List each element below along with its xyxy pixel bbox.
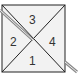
region-label-left: 2 — [10, 36, 17, 48]
region-label-bottom: 1 — [29, 55, 36, 67]
region-label-top: 3 — [29, 14, 36, 26]
region-label-right: 4 — [49, 36, 56, 48]
